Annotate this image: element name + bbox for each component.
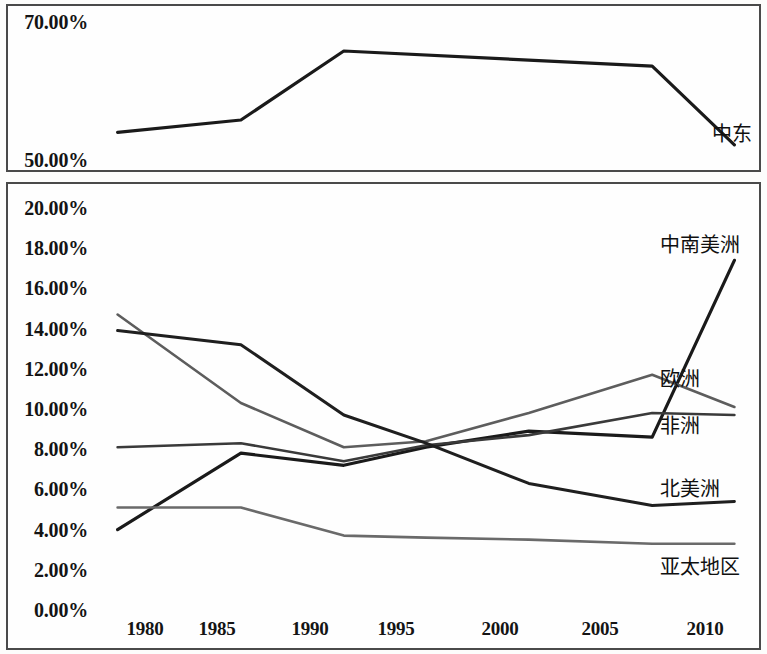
- y-axis-tick-bottom-1: 18.00%: [4, 237, 88, 260]
- series-label-亚太地区: 亚太地区: [660, 551, 740, 580]
- x-axis-tick-1: 1985: [198, 618, 235, 640]
- y-axis-tick-bottom-2: 16.00%: [4, 277, 88, 300]
- y-axis-tick-bottom-6: 8.00%: [4, 438, 88, 461]
- y-axis-tick-bottom-8: 4.00%: [4, 518, 88, 541]
- y-axis-tick-bottom-5: 10.00%: [4, 398, 88, 421]
- bottom-chart-panel: [6, 182, 761, 650]
- x-axis-tick-4: 2000: [481, 618, 518, 640]
- y-axis-tick-bottom-0: 20.00%: [4, 197, 88, 220]
- x-axis-tick-0: 1980: [126, 618, 163, 640]
- x-axis-tick-3: 1995: [377, 618, 414, 640]
- y-axis-tick-bottom-3: 14.00%: [4, 317, 88, 340]
- series-label-欧洲: 欧洲: [660, 363, 700, 392]
- y-axis-tick-bottom-10: 0.00%: [4, 599, 88, 622]
- x-axis-tick-6: 2010: [686, 618, 723, 640]
- y-axis-tick-bottom-4: 12.00%: [4, 357, 88, 380]
- chart-figure: 70.00%50.00%中东20.00%18.00%16.00%14.00%12…: [0, 0, 767, 654]
- y-axis-tick-top-1: 50.00%: [4, 149, 88, 172]
- y-axis-tick-top-0: 70.00%: [4, 11, 88, 34]
- x-axis-tick-2: 1990: [291, 618, 328, 640]
- series-label-中南美洲: 中南美洲: [660, 229, 740, 258]
- series-label-北美洲: 北美洲: [660, 473, 720, 502]
- y-axis-tick-bottom-9: 2.00%: [4, 558, 88, 581]
- x-axis-tick-5: 2005: [581, 618, 618, 640]
- series-label-非洲: 非洲: [660, 410, 700, 439]
- y-axis-tick-bottom-7: 6.00%: [4, 478, 88, 501]
- series-label-中东: 中东: [712, 118, 752, 147]
- top-chart-panel: [6, 4, 761, 172]
